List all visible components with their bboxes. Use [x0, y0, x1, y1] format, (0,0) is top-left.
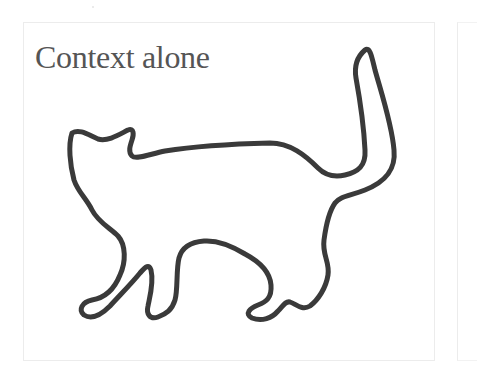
- cat-outline-icon: [70, 49, 394, 319]
